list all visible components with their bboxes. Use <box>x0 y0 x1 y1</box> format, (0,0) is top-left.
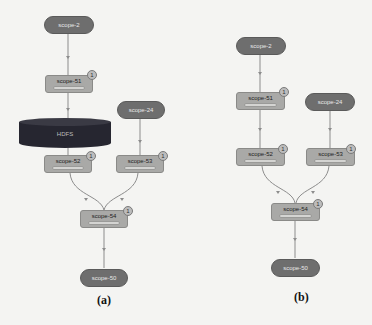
progress-bar <box>244 103 277 107</box>
count-badge: 1 <box>278 144 288 154</box>
node-a-scope-52[interactable]: scope-52 <box>44 155 92 173</box>
node-label: scope-53 <box>128 158 153 165</box>
panel-caption-a: (a) <box>97 293 111 308</box>
progress-bar <box>52 166 84 170</box>
count-badge: 1 <box>313 199 323 209</box>
node-label: scope-2 <box>58 22 79 28</box>
node-a-hdfs-cylinder[interactable]: HDFS <box>19 118 111 148</box>
progress-bar <box>314 159 347 163</box>
node-b-scope-2[interactable]: scope-2 <box>236 37 286 55</box>
node-label: scope-50 <box>92 275 117 281</box>
progress-bar <box>53 86 85 90</box>
panel-caption-b: (b) <box>294 290 309 305</box>
node-label: scope-24 <box>129 107 154 113</box>
progress-bar <box>244 159 277 163</box>
node-a-scope-50[interactable]: scope-50 <box>80 269 128 287</box>
node-b-scope-50[interactable]: scope-50 <box>271 259 320 277</box>
node-b-scope-51[interactable]: scope-51 <box>236 92 285 110</box>
progress-bar <box>124 166 156 170</box>
progress-bar <box>88 221 120 225</box>
count-badge: 1 <box>158 151 168 161</box>
node-label: scope-53 <box>318 151 343 158</box>
edge-a-53-54 <box>104 173 138 210</box>
edge-b-53-54 <box>296 166 329 203</box>
count-badge: 1 <box>86 151 96 161</box>
edge-b-52-54 <box>262 166 295 203</box>
cylinder-top <box>19 118 111 126</box>
node-label: HDFS <box>19 131 111 137</box>
node-label: scope-2 <box>250 43 271 49</box>
count-badge: 1 <box>279 87 289 97</box>
node-label: scope-51 <box>57 78 82 85</box>
node-label: scope-50 <box>283 265 308 271</box>
progress-bar <box>279 214 312 218</box>
node-label: scope-52 <box>56 158 81 165</box>
edge-a-52-54 <box>70 173 104 210</box>
node-label: scope-54 <box>92 213 117 220</box>
node-a-scope-54[interactable]: scope-54 <box>80 210 128 228</box>
node-b-scope-24[interactable]: scope-24 <box>305 93 355 111</box>
node-label: scope-51 <box>248 95 273 102</box>
count-badge: 1 <box>346 144 356 154</box>
node-a-scope-51[interactable]: scope-51 <box>45 75 93 93</box>
node-label: scope-52 <box>248 151 273 158</box>
count-badge: 1 <box>123 206 133 216</box>
node-a-scope-53[interactable]: scope-53 <box>116 155 164 173</box>
count-badge: 1 <box>87 70 97 80</box>
node-a-scope-2[interactable]: scope-2 <box>44 16 94 34</box>
node-label: scope-54 <box>283 206 308 213</box>
node-a-scope-24[interactable]: scope-24 <box>117 101 165 119</box>
node-label: scope-24 <box>318 99 343 105</box>
